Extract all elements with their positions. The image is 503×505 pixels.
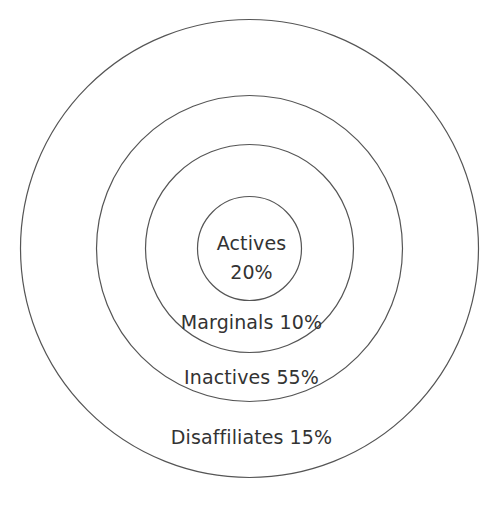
ring-label-marginals: Marginals 10% bbox=[0, 313, 503, 332]
concentric-circles-diagram: Actives 20% Marginals 10% Inactives 55% … bbox=[0, 0, 503, 505]
ring-label-actives-name: Actives bbox=[0, 234, 503, 253]
ring-label-inactives: Inactives 55% bbox=[0, 368, 503, 387]
ring-label-disaffiliates: Disaffiliates 15% bbox=[0, 428, 503, 447]
ring-label-actives-value: 20% bbox=[0, 263, 503, 282]
